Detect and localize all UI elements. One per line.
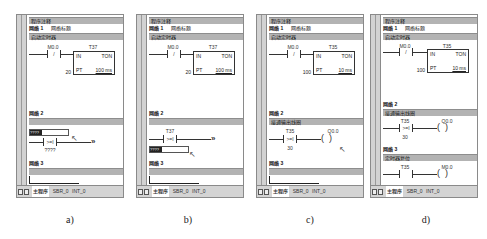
- compare-operand-bottom[interactable]: ????: [40, 147, 60, 153]
- tab-int0[interactable]: INT_0: [426, 186, 440, 197]
- wire: [413, 52, 427, 53]
- network-3-comment[interactable]: [149, 168, 243, 175]
- output-coil-icon[interactable]: (): [437, 169, 453, 178]
- ton-timer-box[interactable]: IN TON PT 10 ms: [427, 49, 469, 73]
- tab-main[interactable]: 主程序: [386, 186, 403, 197]
- ton-timer-box[interactable]: IN TON PT 100 ms: [193, 51, 235, 75]
- edit-cursor[interactable]: ????: [29, 129, 69, 136]
- program-comment[interactable]: 程序注释: [269, 17, 363, 24]
- program-comment[interactable]: 程序注释: [383, 17, 477, 24]
- network-1-comment[interactable]: 启动定时器: [383, 33, 477, 40]
- editor-content[interactable]: 程序注释 网络 1网络标题 启动定时器 M0.0 / T35 IN TON PT…: [383, 15, 477, 186]
- nc-contact[interactable]: /: [167, 50, 181, 58]
- tab-bar: 主程序 SBR_0 INT_0: [371, 185, 477, 197]
- network-2-label: 网络 2: [29, 110, 43, 117]
- network-title: 网络标题: [405, 25, 425, 31]
- tab-main[interactable]: 主程序: [32, 186, 49, 197]
- timer-type: TON: [222, 53, 232, 59]
- mouse-pointer-icon: ↖: [339, 146, 346, 154]
- tab-sbr0[interactable]: SBR_0: [293, 186, 309, 197]
- pt-value[interactable]: 100: [297, 69, 311, 75]
- output-coil-icon[interactable]: (): [321, 134, 337, 143]
- network-1-comment[interactable]: 启动定时器: [29, 33, 123, 40]
- program-comment[interactable]: 程序注释: [29, 17, 123, 24]
- network-1-label: 网络 1网络标题: [29, 25, 71, 32]
- tab-scroll-right-button[interactable]: [378, 189, 383, 195]
- compare-contact[interactable]: >=I: [43, 138, 57, 146]
- tab-scroll-left-button[interactable]: [372, 189, 377, 195]
- tab-int0[interactable]: INT_0: [312, 186, 326, 197]
- editor-content[interactable]: 程序注释 网络 1网络标题 启动定时器 M0.0 / T35 IN TON PT…: [269, 15, 363, 186]
- tab-scroll-right-button[interactable]: [144, 189, 149, 195]
- network-3-comment[interactable]: [29, 168, 123, 175]
- rail-line: [21, 15, 22, 186]
- network-2-label: 网络 2: [383, 101, 397, 108]
- pt-pin: PT: [316, 67, 322, 73]
- network-2-comment[interactable]: 接通输出线圈: [383, 109, 477, 116]
- network-label: 网络 1: [269, 25, 283, 31]
- left-rail: [371, 15, 381, 186]
- tab-scroll-left-button[interactable]: [138, 189, 143, 195]
- network-2-comment[interactable]: [29, 118, 123, 125]
- tab-scroll-right-button[interactable]: [24, 189, 29, 195]
- rail-line: [261, 15, 262, 186]
- editor-content[interactable]: 程序注释 网络 1网络标题 启动定时器 M0.0 / T37 IN TON PT…: [29, 15, 123, 186]
- compare-operand-top[interactable]: T37: [160, 128, 180, 134]
- compare-contact[interactable]: >=I: [163, 135, 177, 143]
- network-3-comment[interactable]: [269, 168, 363, 175]
- tab-main[interactable]: 主程序: [152, 186, 169, 197]
- pt-value[interactable]: 20: [57, 69, 71, 75]
- tab-scroll-left-button[interactable]: [258, 189, 263, 195]
- compare-operand-top[interactable]: T35: [280, 128, 300, 134]
- tab-sbr0[interactable]: SBR_0: [53, 186, 69, 197]
- nc-contact[interactable]: /: [47, 50, 61, 58]
- ton-timer-box[interactable]: IN TON PT 10 ms: [313, 51, 355, 75]
- tab-int0[interactable]: INT_0: [72, 186, 86, 197]
- editor-content[interactable]: 程序注释 网络 1网络标题 启动定时器 M0.0 / T37 IN TON PT…: [149, 15, 243, 186]
- tab-int0[interactable]: INT_0: [192, 186, 206, 197]
- edit-cursor[interactable]: ????: [149, 146, 189, 153]
- network-title: 网络标题: [51, 25, 71, 31]
- tab-scroll-left-button[interactable]: [18, 189, 23, 195]
- tab-main[interactable]: 主程序: [272, 186, 289, 197]
- compare-contact[interactable]: >=I: [399, 124, 413, 132]
- network-1-comment[interactable]: 启动定时器: [149, 33, 243, 40]
- network-3-label: 网络 3: [269, 160, 283, 167]
- tab-sbr0[interactable]: SBR_0: [173, 186, 189, 197]
- compare-operand-bottom[interactable]: 30: [395, 134, 415, 140]
- no-contact[interactable]: [399, 170, 413, 178]
- program-comment[interactable]: 程序注释: [149, 17, 243, 24]
- tab-scroll-right-button[interactable]: [264, 189, 269, 195]
- network-3-label: 网络 3: [383, 146, 397, 153]
- output-coil-icon[interactable]: (): [437, 123, 453, 132]
- time-base: 100 ms: [96, 67, 112, 73]
- network-1-comment[interactable]: 启动定时器: [269, 33, 363, 40]
- network-title: 网络标题: [291, 25, 311, 31]
- mouse-pointer-icon: ↖: [189, 151, 196, 159]
- network-2-label: 网络 2: [149, 110, 163, 117]
- wire: [383, 174, 399, 175]
- network-3-label: 网络 3: [29, 160, 43, 167]
- nc-contact[interactable]: /: [287, 50, 301, 58]
- ton-timer-box[interactable]: IN TON PT 100 ms: [73, 51, 115, 75]
- ladder-editor-panel-a: 程序注释 网络 1网络标题 启动定时器 M0.0 / T37 IN TON PT…: [16, 14, 124, 198]
- network-2-comment[interactable]: [149, 118, 243, 125]
- wire: [383, 52, 399, 53]
- compare-operand-bottom[interactable]: 30: [280, 145, 300, 151]
- pt-value[interactable]: 20: [177, 69, 191, 75]
- network-2-comment[interactable]: 接通输出线圈: [269, 118, 363, 125]
- in-pin: IN: [76, 53, 81, 59]
- network-title: 网络标题: [171, 25, 191, 31]
- nc-contact[interactable]: /: [399, 48, 413, 56]
- pt-value[interactable]: 100: [411, 67, 425, 73]
- wire: [413, 128, 437, 129]
- tab-sbr0[interactable]: SBR_0: [407, 186, 423, 197]
- network-1-label: 网络 1网络标题: [383, 25, 425, 32]
- pt-pin: PT: [196, 67, 202, 73]
- network-3-comment[interactable]: 定时器复位: [383, 154, 477, 161]
- ladder-editor-panel-b: 程序注释 网络 1网络标题 启动定时器 M0.0 / T37 IN TON PT…: [136, 14, 244, 198]
- cursor-highlight: ????: [150, 147, 162, 152]
- rung-bracket: [29, 176, 79, 184]
- wire: [301, 54, 313, 55]
- compare-contact[interactable]: >=I: [283, 135, 297, 143]
